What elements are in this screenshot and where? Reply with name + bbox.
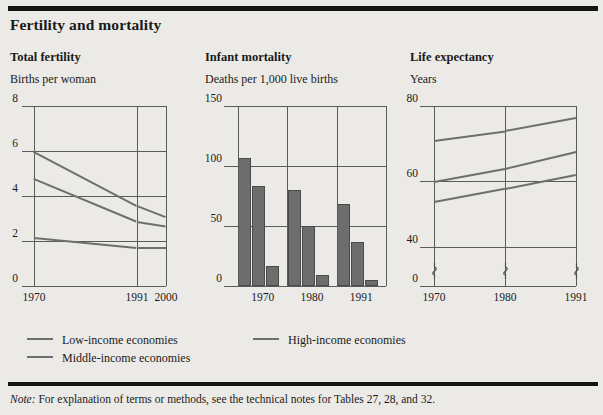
x-tick-label-1970: 1970 xyxy=(237,292,289,303)
gridline-y-0 xyxy=(420,286,576,287)
legend-swatch-line-icon xyxy=(27,356,53,358)
plot-right-border xyxy=(166,106,167,286)
series-line-0 xyxy=(136,205,166,218)
y-tick-label-50: 50 xyxy=(192,213,222,224)
bar-1970-0 xyxy=(238,158,251,286)
y-tick-label-80: 80 xyxy=(388,93,418,104)
gridline-y-2 xyxy=(22,241,166,242)
legend-item-low-income: Low-income economies xyxy=(27,332,178,348)
plot-life-expectancy: 8060400197019801991 xyxy=(410,94,595,309)
x-tick-label-1991: 1991 xyxy=(550,292,602,303)
legend-swatch-line-icon xyxy=(253,338,279,340)
y-tick-label-100: 100 xyxy=(192,153,222,164)
figure-title: Fertility and mortality xyxy=(10,16,161,34)
plot-left-border xyxy=(238,106,239,286)
plot-total-fertility: 02468197019912000 xyxy=(10,94,190,309)
figure-page: Fertility and mortality Total fertility … xyxy=(0,0,603,415)
legend-item-middle-income: Middle-income economies xyxy=(27,350,190,366)
bar-1980-0 xyxy=(288,190,301,286)
note-text: For explanation of terms or methods, see… xyxy=(38,393,435,405)
gridline-x-1970 xyxy=(34,106,35,286)
x-tick-label-1991: 1991 xyxy=(335,292,387,303)
x-tick-label-1980: 1980 xyxy=(286,292,338,303)
x-tick-label-2000: 2000 xyxy=(142,292,190,303)
gridline-group-1980 xyxy=(287,106,288,286)
y-tick-label-8: 8 xyxy=(0,93,18,104)
panel-subtitle-total-fertility: Births per woman xyxy=(10,72,96,87)
bar-1991-1 xyxy=(351,242,364,286)
gridline-x-1980 xyxy=(505,106,506,286)
y-tick-label-40: 40 xyxy=(388,234,418,245)
axis-break-mark-1970 xyxy=(430,263,439,279)
gridline-y-0 xyxy=(224,286,386,287)
gridline-y-150 xyxy=(224,106,386,107)
series-line-1 xyxy=(33,178,137,223)
bar-1980-2 xyxy=(316,275,329,286)
panel-title-total-fertility: Total fertility xyxy=(10,50,81,65)
bottom-rule xyxy=(8,382,598,386)
legend-label-high-income: High-income economies xyxy=(288,333,406,347)
gridline-y-0 xyxy=(22,286,166,287)
gridline-y-8 xyxy=(22,106,166,107)
series-line-1 xyxy=(137,221,166,227)
y-tick-label-60: 60 xyxy=(388,168,418,179)
series-line-2 xyxy=(137,247,166,249)
gridline-x-1991 xyxy=(137,106,138,286)
note-label: Note: xyxy=(10,393,36,405)
bar-1991-0 xyxy=(337,204,350,286)
bar-1970-1 xyxy=(252,186,265,286)
series-line-2 xyxy=(434,188,505,203)
gridline-x-1970 xyxy=(434,106,435,286)
legend-item-high-income: High-income economies xyxy=(253,332,406,348)
x-tick-label-1970: 1970 xyxy=(10,292,58,303)
panel-subtitle-infant-mortality: Deaths per 1,000 live births xyxy=(205,72,338,87)
figure-note: Note: For explanation of terms or method… xyxy=(10,393,435,405)
plot-infant-mortality: 050100150197019801991 xyxy=(205,94,395,309)
y-tick-label-0: 0 xyxy=(192,273,222,284)
bar-1970-2 xyxy=(266,266,279,286)
axis-break-mark-1991 xyxy=(572,263,581,279)
legend-label-middle-income: Middle-income economies xyxy=(62,351,190,365)
y-tick-label-150: 150 xyxy=(192,93,222,104)
x-tick-label-1980: 1980 xyxy=(479,292,531,303)
y-tick-label-4: 4 xyxy=(0,183,18,194)
plot-right-border xyxy=(386,106,387,286)
bar-1991-2 xyxy=(365,280,378,286)
y-tick-label-0: 0 xyxy=(0,273,18,284)
top-rule xyxy=(8,6,598,11)
gridline-y-80 xyxy=(420,106,576,107)
panel-title-infant-mortality: Infant mortality xyxy=(205,50,291,65)
gridline-x-1991 xyxy=(576,106,577,286)
y-tick-label-2: 2 xyxy=(0,228,18,239)
panel-title-life-expectancy: Life expectancy xyxy=(410,50,494,65)
bar-1980-1 xyxy=(302,226,315,286)
axis-break-mark-1980 xyxy=(501,263,510,279)
legend: Low-income economies Middle-income econo… xyxy=(0,330,603,374)
series-line-0 xyxy=(505,117,576,132)
panel-subtitle-life-expectancy: Years xyxy=(410,72,437,87)
y-tick-label-6: 6 xyxy=(0,138,18,149)
y-tick-label-0: 0 xyxy=(388,273,418,284)
gridline-y-6 xyxy=(22,151,166,152)
gridline-y-4 xyxy=(22,196,166,197)
series-line-0 xyxy=(434,130,505,141)
legend-label-low-income: Low-income economies xyxy=(62,333,178,347)
gridline-y-40 xyxy=(420,247,576,248)
gridline-group-1991 xyxy=(337,106,338,286)
x-tick-label-1970: 1970 xyxy=(408,292,460,303)
legend-swatch-line-icon xyxy=(27,338,53,340)
series-line-2 xyxy=(34,237,137,249)
series-line-1 xyxy=(505,151,576,170)
